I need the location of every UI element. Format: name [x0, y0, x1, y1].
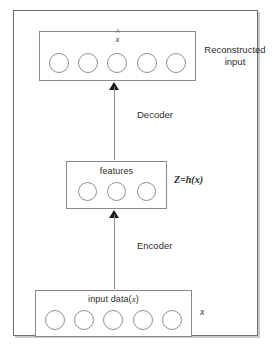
hat-mark: ^	[116, 29, 119, 37]
reconstructed-input-label: Reconstructedinput	[200, 44, 270, 68]
input-data-caption-suffix: )	[136, 294, 139, 304]
neuron	[103, 310, 123, 330]
input-variable-label: x	[200, 306, 204, 318]
reconstructed-input-label-line2: input	[225, 56, 246, 67]
reconstructed-layer-box: ^x	[39, 31, 196, 81]
neuron	[78, 182, 97, 201]
input-data-caption-prefix: input data(	[88, 294, 132, 304]
neuron	[49, 53, 69, 73]
encoder-label: Encoder	[137, 240, 172, 252]
input-neuron-row	[36, 308, 191, 332]
neuron	[166, 53, 186, 73]
features-neuron-row	[67, 180, 166, 203]
arrow-shaft	[114, 87, 115, 160]
reconstructed-neuron-row	[40, 51, 195, 75]
neuron	[107, 53, 127, 73]
neuron	[162, 310, 182, 330]
arrow-shaft	[114, 215, 115, 289]
input-layer-box: input data(x)	[35, 290, 192, 337]
neuron	[74, 310, 94, 330]
features-layer-box: features	[66, 161, 167, 209]
x-hat-label: ^x	[40, 34, 195, 44]
reconstructed-input-label-line1: Reconstructed	[204, 44, 265, 55]
neuron	[137, 53, 157, 73]
diagram-frame: ^x Reconstructedinput Decoder features	[13, 10, 258, 336]
autoencoder-diagram: ^x Reconstructedinput Decoder features	[0, 0, 275, 348]
input-data-caption: input data(x)	[36, 294, 191, 304]
neuron	[137, 182, 156, 201]
encoder-arrow	[109, 210, 120, 289]
features-caption: features	[67, 166, 166, 176]
neuron	[133, 310, 153, 330]
decoder-label: Decoder	[137, 109, 173, 121]
neuron	[107, 182, 126, 201]
neuron	[78, 53, 98, 73]
decoder-arrow	[109, 82, 120, 160]
neuron	[45, 310, 65, 330]
latent-code-equation-label: Z=h(x)	[174, 174, 203, 186]
